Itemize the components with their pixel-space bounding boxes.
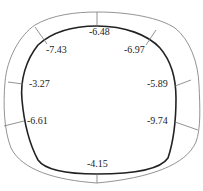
label-right-upper: -5.89: [147, 79, 168, 89]
label-left-upper: -3.27: [29, 79, 50, 89]
label-upper-left: -7.43: [46, 45, 67, 55]
inner-boundary: [22, 26, 176, 174]
label-upper-right: -6.97: [124, 45, 145, 55]
label-bottom: -4.15: [87, 159, 108, 169]
label-left-lower: -6.61: [27, 116, 48, 126]
label-right-lower: -9.74: [147, 116, 168, 126]
label-top: -6.48: [89, 27, 110, 37]
